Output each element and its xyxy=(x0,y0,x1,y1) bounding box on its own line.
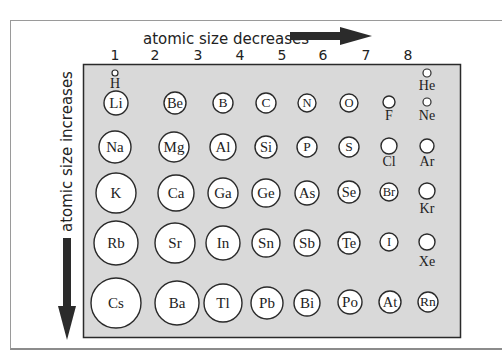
element-sr: Sr xyxy=(155,223,195,263)
element-s: S xyxy=(339,137,359,157)
element-symbol: Br xyxy=(383,185,396,199)
element-ge: Ge xyxy=(252,179,280,207)
atom-circle xyxy=(423,69,431,77)
element-tl: Tl xyxy=(204,284,242,322)
element-symbol: Se xyxy=(342,184,356,200)
element-symbol: B xyxy=(218,95,227,110)
element-symbol: I xyxy=(387,235,391,249)
element-cl: Cl xyxy=(381,138,397,169)
element-pb: Pb xyxy=(251,287,283,319)
element-k: K xyxy=(96,173,136,213)
arrow-down-icon xyxy=(58,238,76,340)
element-symbol: Cl xyxy=(382,154,395,169)
element-symbol: Xe xyxy=(419,254,435,269)
atom-circle xyxy=(423,98,431,106)
element-te: Te xyxy=(338,232,360,254)
element-bi: Bi xyxy=(294,290,320,316)
element-symbol: Sb xyxy=(299,235,315,251)
element-at: At xyxy=(379,291,401,313)
element-symbol: Po xyxy=(342,294,358,310)
element-p: P xyxy=(297,137,317,157)
element-symbol: Sn xyxy=(258,235,274,251)
element-i: I xyxy=(380,233,398,251)
element-symbol: Ga xyxy=(214,185,232,201)
element-symbol: K xyxy=(111,185,122,201)
element-symbol: As xyxy=(299,185,316,201)
element-symbol: Rb xyxy=(107,235,125,251)
element-h: H xyxy=(110,70,120,91)
element-symbol: Te xyxy=(342,235,356,251)
element-symbol: Ge xyxy=(257,185,275,201)
element-be: Be xyxy=(164,92,186,114)
element-cs: Cs xyxy=(91,278,141,328)
atom-circle xyxy=(419,234,435,250)
element-symbol: Bi xyxy=(300,295,314,311)
group-number: 4 xyxy=(236,47,245,63)
element-symbol: He xyxy=(419,78,435,93)
element-symbol: O xyxy=(344,96,353,110)
element-ca: Ca xyxy=(158,175,194,211)
element-n: N xyxy=(298,94,316,112)
element-symbol: In xyxy=(217,235,230,251)
element-al: Al xyxy=(210,134,236,160)
element-symbol: Be xyxy=(167,95,183,111)
group-number: 2 xyxy=(151,47,160,63)
element-br: Br xyxy=(380,183,398,201)
group-number: 3 xyxy=(194,47,203,63)
element-symbol: Pb xyxy=(259,295,275,311)
element-symbol: Li xyxy=(109,95,122,111)
atom-circle xyxy=(381,138,397,154)
element-sn: Sn xyxy=(252,229,280,257)
atom-circle xyxy=(419,183,435,199)
atom-circle xyxy=(420,139,434,153)
element-ar: Ar xyxy=(420,139,435,169)
element-mg: Mg xyxy=(159,132,189,162)
element-sb: Sb xyxy=(294,230,320,256)
element-se: Se xyxy=(338,181,360,203)
element-symbol: Mg xyxy=(164,139,185,155)
element-c: C xyxy=(256,93,276,113)
element-symbol: F xyxy=(385,108,393,123)
group-number: 7 xyxy=(362,47,371,63)
atomic-size-diagram: atomic size decreases 12345678 atomic si… xyxy=(0,0,502,363)
element-symbol: At xyxy=(383,294,397,310)
element-symbol: S xyxy=(345,139,353,154)
element-symbol: Ca xyxy=(168,185,185,201)
element-li: Li xyxy=(104,91,128,115)
group-number: 8 xyxy=(404,47,413,63)
element-symbol: Si xyxy=(260,139,272,155)
group-number: 5 xyxy=(278,47,287,63)
element-symbol: C xyxy=(261,95,270,110)
element-symbol: Ar xyxy=(420,154,435,169)
vertical-axis-title: atomic size increases xyxy=(58,71,76,232)
element-symbol: Cs xyxy=(108,295,124,311)
group-number: 1 xyxy=(111,47,120,63)
element-symbol: H xyxy=(110,76,120,91)
element-o: O xyxy=(340,94,358,112)
element-symbol: P xyxy=(303,139,311,154)
element-ba: Ba xyxy=(155,281,199,325)
element-symbol: Na xyxy=(106,139,124,155)
element-b: B xyxy=(213,93,233,113)
element-ga: Ga xyxy=(208,178,238,208)
element-symbol: Ne xyxy=(419,108,435,123)
element-symbol: N xyxy=(302,96,311,110)
group-number-row: 12345678 xyxy=(111,47,413,63)
element-si: Si xyxy=(255,136,277,158)
element-as: As xyxy=(295,181,319,205)
horizontal-axis-title: atomic size decreases xyxy=(143,30,309,48)
element-symbol: Sr xyxy=(168,235,181,251)
element-symbol: Al xyxy=(216,139,231,155)
element-rn: Rn xyxy=(418,292,438,312)
element-po: Po xyxy=(338,290,362,314)
element-symbol: Kr xyxy=(420,201,435,216)
element-rb: Rb xyxy=(94,221,138,265)
element-symbol: Rn xyxy=(420,294,436,309)
element-symbol: Tl xyxy=(216,295,229,311)
element-in: In xyxy=(206,226,240,260)
element-symbol: Ba xyxy=(169,295,186,311)
atom-circle xyxy=(383,96,395,108)
element-na: Na xyxy=(99,131,131,163)
group-number: 6 xyxy=(319,47,328,63)
